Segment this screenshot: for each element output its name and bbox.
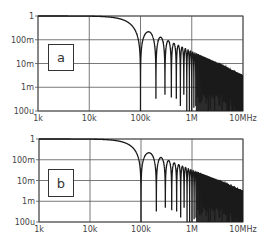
panel-b-label-text: b	[57, 176, 65, 191]
panel-b-label: b	[48, 169, 74, 197]
y-tick-label: 100u	[15, 218, 35, 227]
y-tick-label: 100m	[12, 156, 35, 165]
y-tick-label: 1m	[22, 197, 35, 206]
y-tick-label: 1	[30, 135, 35, 144]
y-tick-label: 100m	[11, 36, 34, 45]
dense-lobes-fill	[196, 53, 243, 111]
y-tick-label: 1	[29, 12, 34, 21]
y-tick-label: 100u	[14, 107, 34, 116]
x-tick-label: 10k	[82, 114, 97, 123]
x-tick-label: 100k	[131, 114, 151, 123]
panel-a-label: a	[48, 44, 74, 71]
x-tick-label: 10MHz	[229, 114, 256, 123]
y-tick-label: 10m	[17, 177, 35, 186]
panel-a-label-text: a	[57, 50, 65, 65]
dense-lobes-fill	[196, 172, 243, 222]
x-tick-label: 10MHz	[229, 225, 256, 234]
x-tick-label: 1k	[34, 225, 44, 234]
x-tick-label: 100k	[131, 225, 151, 234]
x-tick-label: 1M	[186, 114, 198, 123]
x-tick-label: 1k	[33, 114, 43, 123]
chart-svg: 1k10k100k1M10MHz1100m10m1m100u1k10k100k1…	[0, 0, 271, 245]
y-tick-label: 10m	[16, 60, 34, 69]
x-tick-label: 1M	[186, 225, 198, 234]
y-tick-label: 1m	[21, 83, 34, 92]
x-tick-label: 10k	[83, 225, 98, 234]
